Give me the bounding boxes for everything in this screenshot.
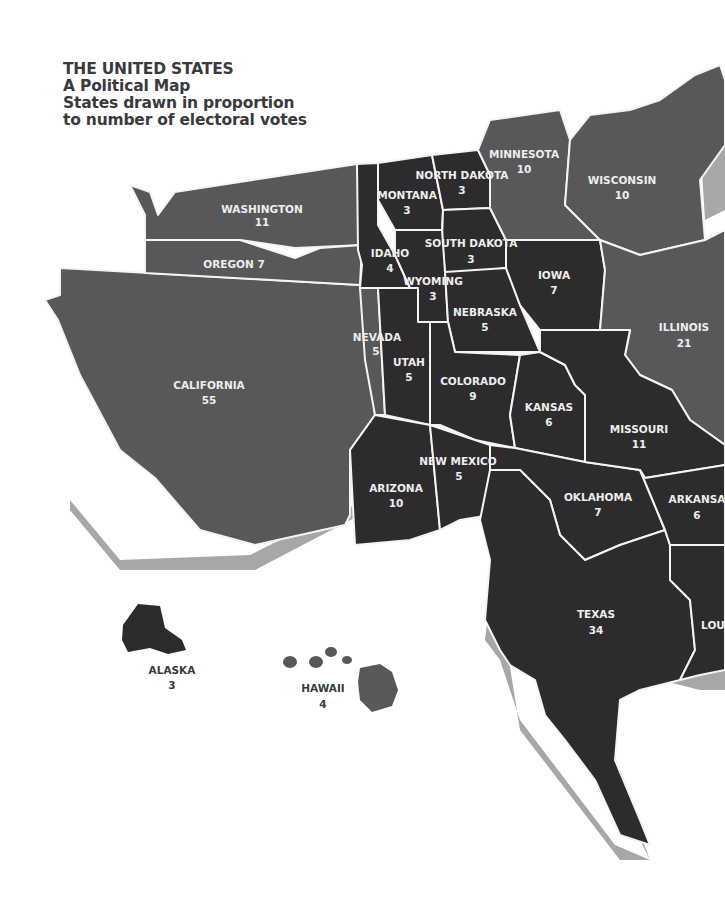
- label-illinois-votes: 21: [677, 337, 692, 349]
- label-new-mexico-name: NEW MEXICO: [419, 455, 497, 467]
- label-idaho-votes: 4: [386, 262, 393, 274]
- label-illinois-name: ILLINOIS: [659, 321, 709, 333]
- label-north-dakota-votes: 3: [458, 184, 465, 196]
- label-iowa-votes: 7: [550, 284, 557, 296]
- label-california-votes: 55: [202, 394, 217, 406]
- label-arizona-name: ARIZONA: [369, 482, 423, 494]
- label-montana-name: MONTANA: [377, 189, 437, 201]
- label-utah-votes: 5: [405, 371, 412, 383]
- label-texas-votes: 34: [589, 624, 604, 636]
- label-oklahoma-votes: 7: [594, 506, 601, 518]
- label-texas-name: TEXAS: [577, 608, 615, 620]
- label-nebraska-votes: 5: [481, 321, 488, 333]
- state-hawaii: [283, 647, 398, 712]
- label-minnesota-votes: 10: [517, 163, 532, 175]
- label-missouri-name: MISSOURI: [610, 423, 668, 435]
- label-washington-votes: 11: [255, 216, 270, 228]
- label-minnesota-name: MINNESOTA: [489, 148, 560, 160]
- label-wyoming-name: WYOMING: [403, 275, 463, 287]
- label-kansas-votes: 6: [545, 416, 552, 428]
- label-colorado-name: COLORADO: [440, 375, 506, 387]
- label-louisiana-name: LOU: [701, 619, 725, 631]
- label-nevada-votes: 5: [372, 345, 379, 357]
- label-california-name: CALIFORNIA: [173, 379, 245, 391]
- label-oklahoma-name: OKLAHOMA: [564, 491, 633, 503]
- label-hawaii-name: HAWAII: [301, 682, 345, 694]
- label-arizona-votes: 10: [389, 497, 404, 509]
- label-missouri-votes: 11: [632, 438, 647, 450]
- label-new-mexico-votes: 5: [455, 470, 462, 482]
- label-north-dakota-name: NORTH DAKOTA: [416, 169, 510, 181]
- label-south-dakota-name: SOUTH DAKOTA: [425, 237, 518, 249]
- label-alaska-votes: 3: [168, 679, 175, 691]
- label-oregon: OREGON 7: [203, 258, 264, 270]
- label-idaho-name: IDAHO: [371, 247, 410, 259]
- state-california[interactable]: [45, 268, 375, 545]
- state-alaska: [122, 604, 186, 654]
- label-arkansas-votes: 6: [693, 509, 700, 521]
- label-iowa-name: IOWA: [538, 269, 571, 281]
- label-wisconsin-votes: 10: [615, 189, 630, 201]
- label-arkansas-name: ARKANSA: [669, 493, 725, 505]
- label-nebraska-name: NEBRASKA: [453, 306, 518, 318]
- label-nevada-name: NEVADA: [353, 331, 402, 343]
- label-colorado-votes: 9: [469, 390, 476, 402]
- label-wyoming-votes: 3: [429, 290, 436, 302]
- label-hawaii-votes: 4: [319, 698, 326, 710]
- label-alaska-name: ALASKA: [149, 664, 197, 676]
- state-wisconsin[interactable]: [565, 65, 725, 255]
- label-washington-name: WASHINGTON: [221, 203, 303, 215]
- us-cartogram-map: WASHINGTON 11 OREGON 7 CALIFORNIA 55 NEV…: [0, 0, 725, 905]
- label-wisconsin-name: WISCONSIN: [588, 174, 657, 186]
- label-kansas-name: KANSAS: [525, 401, 573, 413]
- label-montana-votes: 3: [403, 204, 410, 216]
- label-south-dakota-votes: 3: [467, 253, 474, 265]
- state-arizona[interactable]: [350, 415, 440, 545]
- label-utah-name: UTAH: [393, 356, 425, 368]
